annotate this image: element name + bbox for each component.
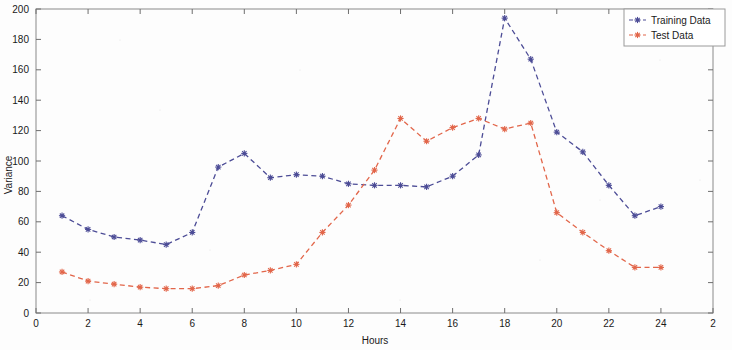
data-point-test-18: [502, 126, 508, 132]
data-point-training-1: [59, 213, 65, 219]
chart-legend[interactable]: Training DataTest Data: [624, 9, 725, 46]
y-tick-label: 120: [12, 125, 29, 136]
data-point-training-17: [476, 152, 482, 158]
data-point-training-2: [85, 226, 91, 232]
data-point-training-18: [502, 15, 508, 21]
data-point-training-22: [606, 182, 612, 188]
data-point-test-15: [423, 138, 429, 144]
data-point-test-14: [397, 115, 403, 121]
legend-label: Training Data: [651, 15, 711, 26]
x-tick-label: 12: [343, 318, 355, 329]
x-tick-label: 2: [710, 318, 716, 329]
y-tick-label: 160: [12, 64, 29, 75]
variance-line-chart: 0246810121416182022242 02040608010012014…: [0, 0, 732, 350]
y-tick-label: 20: [18, 277, 30, 288]
legend-marker-0: [634, 17, 640, 23]
data-point-test-1: [59, 269, 65, 275]
y-tick-label: 140: [12, 95, 29, 106]
scan-noise: [89, 39, 700, 300]
x-axis-title: Hours: [362, 335, 389, 346]
data-series-group: [59, 15, 664, 292]
y-tick-label: 180: [12, 34, 29, 45]
data-point-training-9: [267, 175, 273, 181]
legend-marker-1: [634, 32, 640, 38]
data-point-test-7: [215, 283, 221, 289]
y-tick-label: 200: [12, 4, 29, 15]
x-axis-tick-labels: 0246810121416182022242: [33, 318, 716, 329]
plot-frame: [36, 9, 713, 313]
x-tick-label: 2: [85, 318, 91, 329]
data-point-test-6: [189, 286, 195, 292]
data-point-test-12: [345, 202, 351, 208]
data-point-test-5: [163, 286, 169, 292]
x-tick-label: 24: [655, 318, 667, 329]
series-training-data: [59, 15, 664, 248]
data-point-test-9: [267, 267, 273, 273]
y-tick-label: 100: [12, 156, 29, 167]
data-point-test-22: [606, 248, 612, 254]
x-tick-label: 18: [499, 318, 511, 329]
y-tick-label: 0: [23, 308, 29, 319]
data-point-training-21: [580, 149, 586, 155]
data-point-test-4: [137, 284, 143, 290]
x-tick-label: 0: [33, 318, 39, 329]
data-point-training-5: [163, 242, 169, 248]
x-axis-ticks: [36, 9, 713, 313]
x-tick-label: 14: [395, 318, 407, 329]
data-point-training-11: [319, 173, 325, 179]
data-point-training-6: [189, 229, 195, 235]
y-axis-tick-labels: 020406080100120140160180200: [12, 4, 29, 319]
series-test-data: [59, 115, 664, 291]
data-point-training-4: [137, 237, 143, 243]
data-point-training-7: [215, 164, 221, 170]
data-point-training-16: [450, 173, 456, 179]
data-point-training-19: [528, 56, 534, 62]
y-axis-ticks: [36, 9, 713, 313]
data-point-training-15: [423, 184, 429, 190]
data-point-test-20: [554, 210, 560, 216]
data-point-training-20: [554, 129, 560, 135]
x-tick-label: 22: [603, 318, 615, 329]
data-point-training-13: [371, 182, 377, 188]
x-tick-label: 16: [447, 318, 459, 329]
data-point-test-19: [528, 120, 534, 126]
y-tick-label: 40: [18, 247, 30, 258]
y-tick-label: 80: [18, 186, 30, 197]
data-point-test-3: [111, 281, 117, 287]
y-axis-title: Variance: [3, 155, 14, 194]
data-point-training-24: [658, 204, 664, 210]
x-tick-label: 8: [242, 318, 248, 329]
y-tick-label: 60: [18, 216, 30, 227]
data-point-test-16: [450, 124, 456, 130]
data-point-test-11: [319, 229, 325, 235]
data-point-training-12: [345, 181, 351, 187]
data-point-training-23: [632, 213, 638, 219]
data-point-test-10: [293, 261, 299, 267]
data-point-test-21: [580, 229, 586, 235]
data-point-training-14: [397, 182, 403, 188]
data-point-test-13: [371, 167, 377, 173]
chart-figure: 0246810121416182022242 02040608010012014…: [0, 0, 732, 350]
data-point-test-2: [85, 278, 91, 284]
data-point-test-8: [241, 272, 247, 278]
data-point-test-17: [476, 115, 482, 121]
legend-label: Test Data: [651, 30, 694, 41]
x-tick-label: 10: [291, 318, 303, 329]
data-point-training-10: [293, 172, 299, 178]
x-tick-label: 4: [137, 318, 143, 329]
data-point-test-24: [658, 264, 664, 270]
data-point-training-3: [111, 234, 117, 240]
x-tick-label: 20: [551, 318, 563, 329]
x-tick-label: 6: [189, 318, 195, 329]
data-point-test-23: [632, 264, 638, 270]
data-point-training-8: [241, 150, 247, 156]
